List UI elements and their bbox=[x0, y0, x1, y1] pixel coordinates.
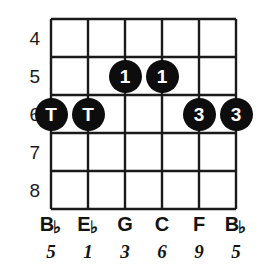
fret-number-7: 7 bbox=[6, 143, 40, 162]
interval-string-2: 1 bbox=[67, 242, 109, 261]
string-name-2: E♭ bbox=[67, 214, 109, 234]
fret-marker-string4-fret5[interactable]: 1 bbox=[146, 60, 179, 93]
string-name-3: G bbox=[104, 214, 146, 234]
interval-string-1: 5 bbox=[30, 242, 72, 261]
flat-icon: ♭ bbox=[238, 218, 246, 237]
string-name-1: B♭ bbox=[30, 214, 72, 234]
string-name-4: C bbox=[141, 214, 183, 234]
fret-marker-string2-fret6[interactable]: T bbox=[72, 98, 105, 131]
string-name-5: F bbox=[178, 214, 220, 234]
interval-string-3: 3 bbox=[104, 242, 146, 261]
string-name-4-letter: C bbox=[155, 213, 169, 235]
fret-number-8: 8 bbox=[6, 181, 40, 200]
interval-string-6: 5 bbox=[215, 242, 257, 261]
interval-string-4: 6 bbox=[141, 242, 183, 261]
interval-string-5: 9 bbox=[178, 242, 220, 261]
chord-diagram: 4 5 6 7 8 T T 1 1 3 3 B♭ E♭ G C F B♭ 5 1… bbox=[0, 0, 265, 272]
fret-marker-string5-fret6[interactable]: 3 bbox=[183, 98, 216, 131]
fret-marker-string6-fret6[interactable]: 3 bbox=[220, 98, 253, 131]
fret-number-5: 5 bbox=[6, 67, 40, 86]
string-name-2-letter: E bbox=[77, 213, 90, 235]
string-name-6: B♭ bbox=[215, 214, 257, 234]
flat-icon: ♭ bbox=[90, 218, 98, 237]
fret-marker-string3-fret5[interactable]: 1 bbox=[109, 60, 142, 93]
flat-icon: ♭ bbox=[53, 218, 61, 237]
string-name-5-letter: F bbox=[193, 213, 205, 235]
string-name-3-letter: G bbox=[117, 213, 133, 235]
fret-marker-string1-fret6[interactable]: T bbox=[35, 98, 68, 131]
fret-number-4: 4 bbox=[6, 29, 40, 48]
